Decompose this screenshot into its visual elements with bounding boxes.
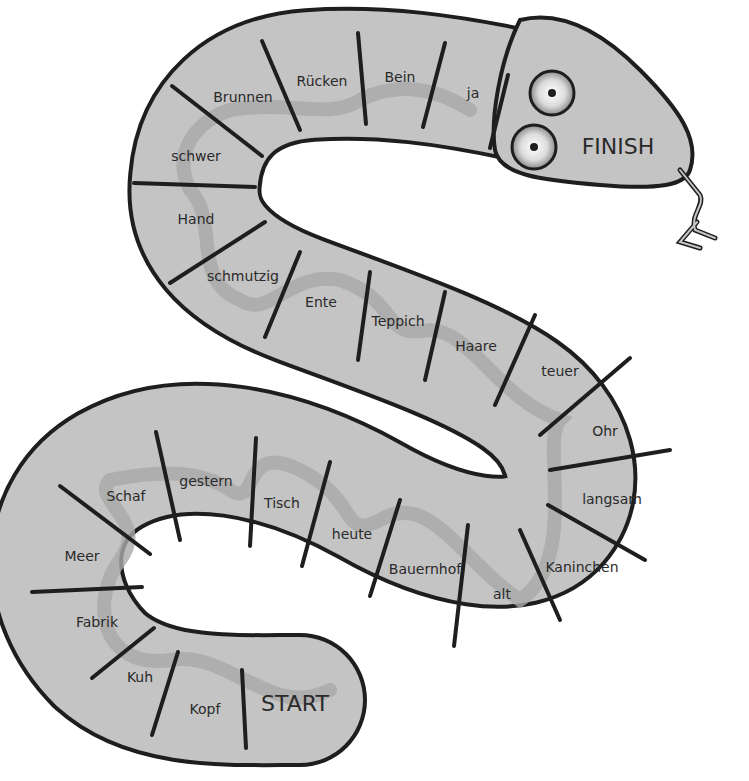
snake-body <box>56 74 570 700</box>
cell-label: Schaf <box>107 488 147 504</box>
cell-label: alt <box>493 586 511 602</box>
snake-head: FINISH <box>494 17 715 248</box>
cell-label: Ohr <box>592 423 618 439</box>
cell-label: Haare <box>455 338 497 354</box>
start-label: START <box>261 691 329 716</box>
cell-label: Kuh <box>127 669 153 685</box>
cell-label: Rücken <box>297 73 348 89</box>
cell-label: Brunnen <box>213 89 272 105</box>
finish-label: FINISH <box>582 134 655 159</box>
cell-label: ja <box>466 85 479 101</box>
cell-label: gestern <box>179 473 232 489</box>
cell-label: heute <box>332 526 372 542</box>
cell-label: teuer <box>541 363 579 379</box>
cell-label: Kaninchen <box>545 559 618 575</box>
cell-label: Bauernhof <box>389 561 462 577</box>
cell-label: Fabrik <box>76 614 119 630</box>
snake-board: FINISH START Kopf Kuh Fabrik Meer <box>0 0 749 781</box>
cell-label: schwer <box>171 148 221 164</box>
cell-label: Tisch <box>263 495 300 511</box>
cell-label: Hand <box>178 211 215 227</box>
cell-label: Bein <box>385 69 416 85</box>
cell-label: langsam <box>582 491 642 507</box>
cell-label: Teppich <box>370 313 424 329</box>
cell-label: Ente <box>305 294 337 310</box>
cell-label: Kopf <box>190 701 222 717</box>
cell-label: schmutzig <box>207 268 279 284</box>
cell-label: Meer <box>64 548 99 564</box>
